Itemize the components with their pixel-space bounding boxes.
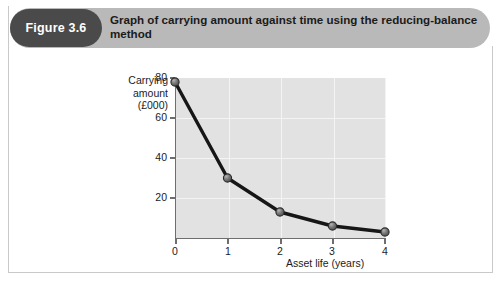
data-point-1: [223, 174, 231, 182]
data-point-3: [328, 222, 336, 230]
series-line: [175, 78, 391, 244]
data-point-0: [171, 78, 179, 86]
x-tick-label-3: 3: [321, 245, 343, 257]
x-axis-label: Asset life (years): [286, 257, 446, 269]
y-axis-label-line-2: amount: [104, 87, 168, 100]
x-tick-label-2: 2: [269, 245, 291, 257]
data-point-4: [381, 228, 389, 236]
figure-card: Figure 3.6 Graph of carrying amount agai…: [0, 0, 504, 282]
y-tick-label-40: 40: [141, 151, 167, 163]
x-tick-label-1: 1: [217, 245, 239, 257]
x-tick-label-4: 4: [374, 245, 396, 257]
y-axis-label-line-3: (£000): [104, 99, 168, 112]
data-point-2: [276, 208, 284, 216]
y-tick-label-60: 60: [141, 111, 167, 123]
y-tick-label-80: 80: [141, 71, 167, 83]
y-tick-label-20: 20: [141, 191, 167, 203]
line-chart: Carrying amount (£000) 80 60 40 20 0 1: [0, 0, 504, 282]
x-tick-label-0: 0: [164, 245, 186, 257]
